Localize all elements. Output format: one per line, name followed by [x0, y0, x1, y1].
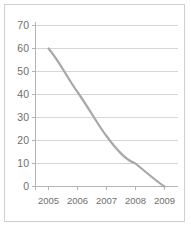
x-tick-label-2008: 2008	[125, 195, 146, 206]
y-tick-marks	[32, 26, 36, 187]
y-tick-label-40: 40	[17, 88, 29, 100]
y-tick-label-30: 30	[17, 111, 29, 123]
y-tick-label-0: 0	[23, 180, 29, 192]
axes	[36, 22, 179, 190]
y-tick-label-70: 70	[17, 19, 29, 31]
chart-canvas: 70 60 50 40 30 20 10 0 2005 2006 2007 20…	[0, 0, 191, 227]
chart-screenshot: 70 60 50 40 30 20 10 0 2005 2006 2007 20…	[0, 0, 191, 227]
x-tick-label-2005: 2005	[38, 195, 59, 206]
x-tick-label-2006: 2006	[67, 195, 88, 206]
x-axis-tick-labels: 2005 2006 2007 2008 2009	[38, 195, 175, 206]
y-tick-label-50: 50	[17, 65, 29, 77]
y-tick-label-20: 20	[17, 134, 29, 146]
y-tick-label-60: 60	[17, 42, 29, 54]
y-tick-label-10: 10	[17, 157, 29, 169]
x-tick-marks	[49, 187, 165, 191]
y-axis-tick-labels: 70 60 50 40 30 20 10 0	[17, 19, 29, 192]
x-tick-label-2009: 2009	[154, 195, 175, 206]
line-chart: 70 60 50 40 30 20 10 0 2005 2006 2007 20…	[0, 0, 191, 227]
x-tick-label-2007: 2007	[96, 195, 117, 206]
gridlines	[36, 26, 179, 187]
